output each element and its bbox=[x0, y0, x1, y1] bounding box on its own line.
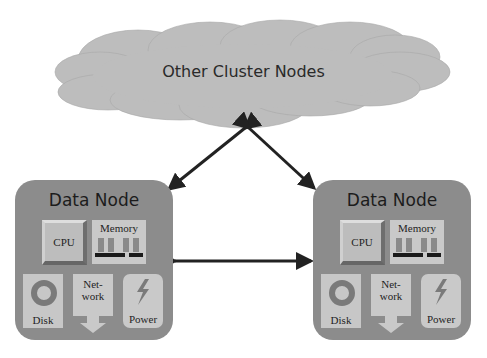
cloud-label: Other Cluster Nodes bbox=[0, 62, 487, 81]
power-block: Power bbox=[123, 274, 163, 328]
memory-chip-icon bbox=[431, 238, 437, 252]
power-label: Power bbox=[421, 313, 461, 325]
network-arrow-icon bbox=[79, 316, 107, 334]
disk-icon bbox=[329, 280, 355, 306]
cpu-label: CPU bbox=[351, 236, 372, 248]
disk-block: Disk bbox=[23, 274, 63, 328]
memory-block: Memory bbox=[92, 220, 146, 264]
disk-label: Disk bbox=[23, 314, 63, 326]
node-title: Data Node bbox=[15, 190, 173, 210]
network-block: Net-work bbox=[371, 274, 411, 316]
memory-bar-icon bbox=[95, 253, 125, 257]
data-node-right: Data Node CPU Memory Disk Net-work Power bbox=[313, 180, 471, 340]
power-label: Power bbox=[123, 313, 163, 325]
memory-chip-icon bbox=[396, 238, 402, 252]
memory-chip-icon bbox=[133, 238, 139, 252]
memory-label: Memory bbox=[390, 222, 444, 234]
network-block: Net-work bbox=[73, 274, 113, 316]
cpu-label: CPU bbox=[53, 236, 74, 248]
memory-chip-icon bbox=[123, 238, 129, 252]
data-node-left: Data Node CPU Memory Disk Net-work Power bbox=[15, 180, 173, 340]
memory-bar-icon bbox=[129, 253, 143, 257]
lightning-icon bbox=[432, 279, 450, 305]
arrow-cloud-right bbox=[249, 128, 314, 188]
memory-chip-icon bbox=[421, 238, 427, 252]
node-title: Data Node bbox=[313, 190, 471, 210]
memory-chip-icon bbox=[98, 238, 104, 252]
memory-chip-icon bbox=[406, 238, 412, 252]
lightning-icon bbox=[134, 279, 152, 305]
memory-block: Memory bbox=[390, 220, 444, 264]
network-label: Net-work bbox=[371, 278, 411, 302]
disk-block: Disk bbox=[321, 274, 361, 328]
memory-bar-icon bbox=[427, 253, 441, 257]
cpu-block: CPU bbox=[340, 220, 385, 265]
power-block: Power bbox=[421, 274, 461, 328]
arrow-cloud-left bbox=[169, 128, 245, 189]
network-arrow-icon bbox=[377, 316, 405, 334]
memory-label: Memory bbox=[92, 222, 146, 234]
cpu-block: CPU bbox=[42, 220, 87, 265]
memory-chip-icon bbox=[108, 238, 114, 252]
network-label: Net-work bbox=[73, 278, 113, 302]
memory-bar-icon bbox=[393, 253, 423, 257]
disk-icon bbox=[31, 280, 57, 306]
disk-label: Disk bbox=[321, 314, 361, 326]
